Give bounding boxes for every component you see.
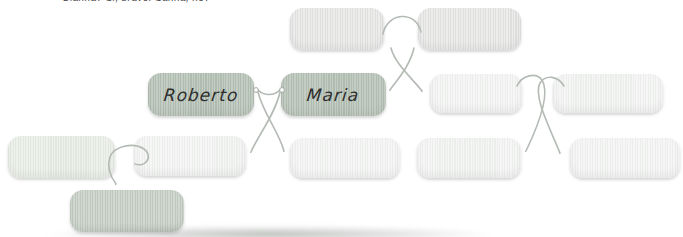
tree-node-spouse-left bbox=[8, 136, 115, 178]
connector-grandparents-to-uncle bbox=[391, 48, 422, 91]
tree-node-roberto: Roberto bbox=[148, 73, 254, 116]
connector-grandparents-arch bbox=[383, 16, 421, 34]
tree-node-child-2 bbox=[290, 138, 400, 178]
clipped-caption-text: Gianna? Si, bravo! Sanna, no? bbox=[62, 0, 210, 3]
scanned-family-tree-diagram: Gianna? Si, bravo! Sanna, no? Roberto Ma… bbox=[0, 0, 683, 237]
tree-node-label: Roberto bbox=[163, 85, 240, 105]
tree-node-child-1 bbox=[134, 136, 246, 176]
connector-grandparents-to-maria bbox=[390, 48, 414, 90]
tree-node-maria: Maria bbox=[281, 73, 386, 116]
tree-node-cousin-1 bbox=[417, 138, 521, 178]
connector-roberto-maria-string bbox=[258, 90, 280, 95]
tree-node-cousin-2 bbox=[570, 138, 680, 178]
tag-hole-dots bbox=[254, 88, 285, 93]
tree-node-label: Maria bbox=[306, 85, 360, 105]
connector-roberto-maria-to-child-1 bbox=[251, 92, 280, 152]
tree-node-uncle bbox=[430, 74, 522, 113]
tree-node-grandparent-right bbox=[418, 8, 521, 50]
tree-node-aunt bbox=[553, 74, 663, 113]
tree-node-grandparent-left bbox=[290, 8, 384, 50]
page-bottom-shadow bbox=[0, 221, 615, 237]
